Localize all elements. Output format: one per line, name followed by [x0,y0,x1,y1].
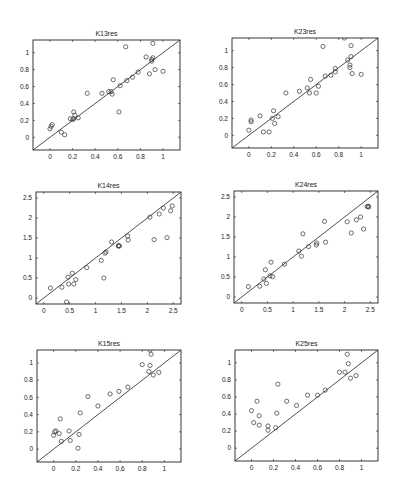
data-point-marker [323,240,327,244]
x-tick-label: 0.5 [65,307,74,314]
data-point-marker [345,352,349,356]
scatter-plot-k14res: K14res00.511.522.500.511.522.5 [23,182,181,314]
x-tick-label: 0.8 [138,465,147,472]
data-point-marker [96,404,100,408]
data-point-marker [67,429,71,433]
y-tick-label: 0.8 [20,66,29,73]
data-point-marker [67,282,71,286]
x-tick-label: 2 [146,307,150,314]
y-tick-label: 0.6 [222,393,231,400]
data-point-marker [126,385,130,389]
data-point-marker [126,234,130,238]
data-point-marker [78,411,82,415]
y-tick-label: 1 [226,253,230,260]
x-tick-label: 0.6 [313,464,322,471]
data-point-marker [74,278,78,282]
data-point-marker [348,66,352,70]
y-tick-label: 2.5 [221,193,230,200]
reference-line [235,350,378,461]
data-point-marker [346,362,350,366]
data-point-marker [76,446,80,450]
x-tick-label: 0.2 [68,153,77,160]
data-point-marker [157,370,161,374]
x-tick-label: 1.5 [117,307,126,314]
x-tick-label: 1 [163,465,167,472]
y-tick-label: 0.4 [20,100,29,107]
y-tick-label: 0.2 [222,427,231,434]
data-points [48,41,165,137]
x-tick-label: 0.4 [291,464,300,471]
data-point-marker [276,382,280,386]
data-point-marker [108,392,112,396]
data-point-marker [124,45,128,49]
y-tick-label: 1.5 [23,234,32,241]
data-point-marker [316,84,320,88]
data-point-marker [257,414,261,418]
data-point-marker [140,363,144,367]
data-point-marker [362,227,366,231]
plot-title: K13res [95,30,118,37]
data-point-marker [266,424,270,428]
x-tick-label: 0.5 [263,306,272,313]
data-point-marker [77,432,81,436]
reference-line [234,191,378,303]
y-tick-label: 1 [25,49,29,56]
data-point-marker [269,260,273,264]
data-point-marker [151,41,155,45]
y-tick-label: 0.8 [219,64,228,71]
data-point-marker [348,376,352,380]
x-tick-label: 0 [52,465,56,472]
data-points [246,204,371,289]
data-point-marker [301,232,305,236]
data-point-marker [126,238,130,242]
x-tick-label: 0 [240,306,244,313]
data-point-marker [305,86,309,90]
data-point-marker [271,109,275,113]
y-tick-label: 0.4 [222,410,231,417]
data-point-marker [152,238,156,242]
data-point-marker [165,236,169,240]
data-point-marker [58,417,62,421]
x-tick-label: 0 [42,307,46,314]
data-point-marker [257,423,261,427]
data-point-marker [258,114,262,118]
data-point-marker [359,72,363,76]
y-tick-label: 0 [226,293,230,300]
reference-line [37,350,181,462]
data-point-marker [307,91,311,95]
y-tick-label: 0.5 [221,273,230,280]
data-point-marker [147,72,151,76]
x-tick-label: 0 [48,153,52,160]
data-point-marker [48,286,52,290]
scatter-plot-k13res: K13res00.20.40.60.8100.20.40.60.81 [20,30,180,160]
y-tick-label: 2 [28,214,32,221]
data-point-marker [68,438,72,442]
data-points [48,204,174,304]
data-point-marker [85,266,89,270]
x-tick-label: 0.8 [335,464,344,471]
data-point-marker [60,285,64,289]
data-point-marker [354,218,358,222]
y-tick-label: 2.5 [23,194,32,201]
data-point-marker [314,91,318,95]
y-tick-label: 0.8 [222,376,231,383]
data-point-marker [275,411,279,415]
data-point-marker [86,394,90,398]
data-point-marker [117,389,121,393]
scatter-plot-k24res: K24res00.511.522.500.511.522.5 [221,181,378,313]
data-point-marker [57,431,61,435]
data-point-marker [322,219,326,223]
data-point-marker [273,121,277,125]
data-point-marker [85,91,89,95]
data-point-marker [349,231,353,235]
y-tick-label: 1 [29,359,33,366]
data-point-marker [161,206,165,210]
data-point-marker [263,268,267,272]
data-point-marker [70,271,74,275]
x-tick-label: 0 [250,464,254,471]
data-point-marker [266,428,270,432]
data-point-marker [297,89,301,93]
data-point-marker [99,258,103,262]
data-points [249,352,358,432]
data-point-marker [111,78,115,82]
